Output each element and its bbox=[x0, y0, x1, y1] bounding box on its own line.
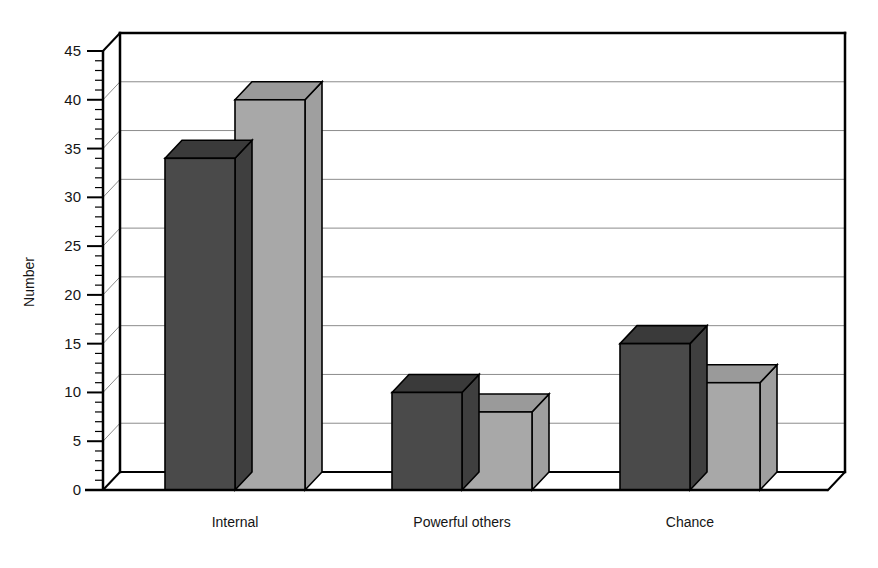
bar-powerful-others-s1 bbox=[392, 374, 479, 490]
bar-side-face bbox=[462, 374, 479, 490]
y-tick-label: 40 bbox=[64, 91, 81, 108]
bar-chart: 051015202530354045 InternalPowerful othe… bbox=[0, 0, 878, 568]
y-tick-label: 35 bbox=[64, 140, 81, 157]
y-axis-title-text: Number bbox=[21, 257, 37, 307]
x-category-label: Powerful others bbox=[413, 514, 510, 530]
bar-side-face bbox=[235, 140, 252, 490]
x-category-label: Chance bbox=[666, 514, 714, 530]
bar-front-face bbox=[165, 158, 235, 490]
bar-internal-s1 bbox=[165, 140, 252, 490]
y-tick-label: 20 bbox=[64, 286, 81, 303]
bar-front-face bbox=[392, 392, 462, 490]
chart-canvas: 051015202530354045 InternalPowerful othe… bbox=[0, 0, 878, 568]
y-tick-label: 15 bbox=[64, 335, 81, 352]
bar-front-face bbox=[620, 344, 690, 490]
bar-side-face bbox=[305, 82, 322, 490]
y-tick-label: 0 bbox=[73, 481, 81, 498]
y-tick-label: 5 bbox=[73, 432, 81, 449]
bar-chance-s1 bbox=[620, 326, 707, 490]
y-tick-label: 25 bbox=[64, 237, 81, 254]
y-tick-label: 10 bbox=[64, 383, 81, 400]
y-tick-label: 30 bbox=[64, 188, 81, 205]
bar-side-face bbox=[690, 326, 707, 490]
y-tick-label: 45 bbox=[64, 42, 81, 59]
x-category-label: Internal bbox=[212, 514, 259, 530]
bar-side-face bbox=[760, 365, 777, 490]
y-axis-title: Number bbox=[21, 257, 37, 307]
